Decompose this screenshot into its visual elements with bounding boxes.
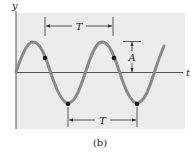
trough-marker [66,102,71,107]
t-axis-label: t [186,67,191,78]
point-marker [43,56,48,61]
point-marker [112,56,117,61]
y-axis-label: y [11,0,18,11]
trough-marker [135,102,140,107]
figure-caption: (b) [93,137,107,148]
amplitude-label: A [127,52,135,63]
plot-panel [16,13,185,129]
sine-wave-diagram: y t T T A (b) [0,0,195,154]
